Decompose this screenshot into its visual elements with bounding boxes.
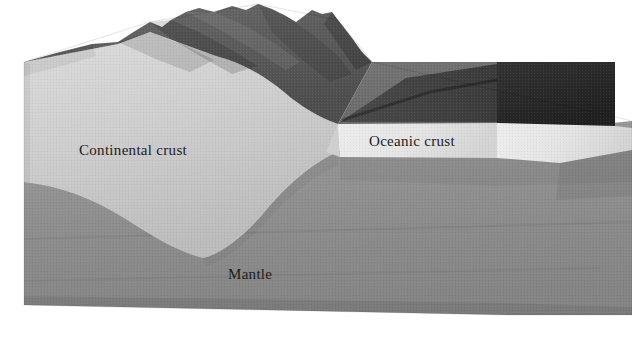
block-diagram-svg [0, 0, 632, 347]
plate-tectonics-diagram: Continental crust Oceanic crust Mantle [0, 0, 632, 347]
continental-crust-left-face [24, 62, 30, 182]
oceanic-crust-slab-texture [338, 123, 497, 158]
oceanic-crust-layer [326, 123, 632, 163]
